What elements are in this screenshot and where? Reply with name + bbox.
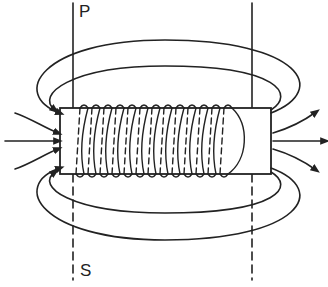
diagram-canvas	[0, 0, 328, 287]
label-p: P	[79, 3, 90, 20]
solenoid-diagram: P S	[0, 0, 328, 287]
field-lines-top	[37, 40, 300, 113]
field-lines-bottom	[37, 168, 300, 240]
field-lines-left	[5, 113, 58, 169]
field-lines-right	[273, 112, 325, 170]
label-s: S	[80, 262, 91, 279]
